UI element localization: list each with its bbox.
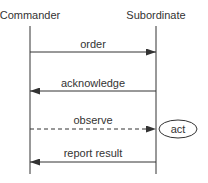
activity-act: act — [159, 120, 197, 138]
message-report-result: report result — [30, 147, 156, 162]
sequence-diagram: Commander Subordinate order acknowledge … — [0, 0, 208, 183]
message-order: order — [30, 38, 156, 52]
message-acknowledge-label: acknowledge — [61, 77, 125, 89]
actor-subordinate-label: Subordinate — [126, 9, 185, 21]
message-observe-label: observe — [73, 114, 112, 126]
message-order-label: order — [80, 38, 106, 50]
activity-act-label: act — [171, 123, 186, 135]
message-acknowledge: acknowledge — [30, 77, 156, 91]
message-report-result-label: report result — [64, 147, 123, 159]
actor-commander-label: Commander — [0, 9, 61, 21]
message-observe: observe — [30, 114, 156, 129]
